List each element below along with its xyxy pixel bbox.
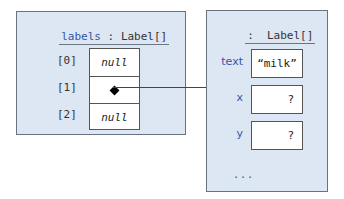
more-fields-ellipsis: ... [233, 169, 254, 180]
index-label-1: [1] [57, 81, 87, 94]
field-label-x: x [203, 91, 243, 104]
array-cell-0: null [90, 49, 139, 76]
type-separator: : [101, 30, 121, 43]
field-value-y: ? [251, 121, 303, 150]
array-box: null null [89, 48, 140, 130]
index-label-2: [2] [57, 108, 87, 121]
null-value: null [101, 56, 128, 69]
variable-type: Label[] [121, 30, 167, 43]
variable-name: labels [61, 30, 101, 43]
field-value-text: “milk” [251, 49, 303, 78]
object-panel: : Label[] text “milk” x ? y ? ... [206, 10, 328, 192]
field-label-text: text [203, 55, 243, 68]
array-variable-panel: labels : Label[] [0] [1] [2] null null [16, 11, 186, 135]
field-value-x: ? [251, 85, 303, 114]
array-cell-2: null [90, 103, 139, 130]
field-label-y: y [203, 127, 243, 140]
index-label-0: [0] [57, 54, 87, 67]
array-cell-1 [90, 76, 139, 103]
null-value: null [101, 111, 128, 124]
reference-arrow-line [113, 87, 206, 88]
